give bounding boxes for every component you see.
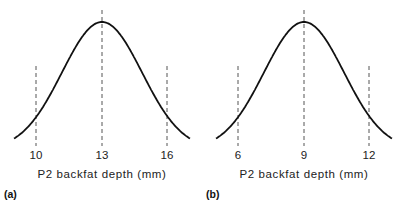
tick-label: 6 xyxy=(235,149,241,161)
figure: 10 13 16 P2 backfat depth (mm) (a) 6 9 1… xyxy=(0,0,401,206)
panel-a: 10 13 16 P2 backfat depth (mm) (a) xyxy=(4,10,190,200)
panel-label: (b) xyxy=(206,188,219,200)
panel-label: (a) xyxy=(4,188,17,200)
tick-label: 12 xyxy=(363,149,376,161)
panel-b: 6 9 12 P2 backfat depth (mm) (b) xyxy=(206,10,392,200)
tick-label: 9 xyxy=(301,149,307,161)
x-axis-label: P2 backfat depth (mm) xyxy=(240,168,369,180)
tick-label: 13 xyxy=(96,149,109,161)
tick-label: 16 xyxy=(161,149,174,161)
x-axis-label: P2 backfat depth (mm) xyxy=(38,168,167,180)
tick-label: 10 xyxy=(30,149,43,161)
